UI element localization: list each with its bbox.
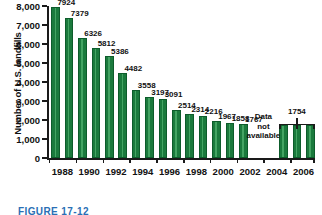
x-tick-mark-1996 bbox=[156, 158, 158, 163]
bar-highlight bbox=[175, 111, 176, 157]
x-tick-label-2000: 2000 bbox=[213, 166, 234, 177]
x-tick-mark-end bbox=[313, 158, 315, 163]
bar-highlight bbox=[148, 98, 149, 157]
y-tick-label: 0 bbox=[35, 153, 40, 164]
figure-caption: FIGURE 17-12 bbox=[18, 206, 89, 215]
bar-value-label-1989: 7379 bbox=[71, 9, 89, 18]
bar-2001 bbox=[226, 123, 235, 158]
x-tick-label-1990: 1990 bbox=[79, 166, 100, 177]
bar-1993 bbox=[118, 73, 127, 158]
bar-highlight bbox=[162, 100, 163, 157]
y-tick-label: 3,000 bbox=[16, 96, 40, 107]
bar-value-label-1996: 3091 bbox=[165, 90, 183, 99]
x-tick-label-1998: 1998 bbox=[186, 166, 207, 177]
x-axis-line bbox=[47, 158, 315, 160]
bracket-leg-mid bbox=[296, 124, 298, 129]
y-tick-mark bbox=[42, 100, 47, 102]
y-tick-label: 5,000 bbox=[16, 58, 40, 69]
bar-highlight bbox=[81, 39, 82, 157]
bracket-leg-left bbox=[279, 124, 281, 129]
gap-note-line-3: available bbox=[246, 131, 280, 141]
bar-value-label-1993: 4482 bbox=[124, 64, 142, 73]
bar-value-label-1990: 6326 bbox=[84, 29, 102, 38]
y-tick-mark bbox=[42, 62, 47, 64]
bar-highlight bbox=[95, 49, 96, 157]
bar-2005 bbox=[279, 125, 288, 158]
x-tick-label-2006: 2006 bbox=[293, 166, 314, 177]
bar-highlight bbox=[309, 126, 310, 157]
bar-1991 bbox=[92, 48, 101, 158]
gap-note-line-2: not bbox=[246, 122, 280, 132]
bar-highlight bbox=[229, 124, 230, 157]
bracket-stem bbox=[296, 118, 298, 124]
bar-highlight bbox=[108, 57, 109, 157]
bar-1995 bbox=[145, 97, 154, 158]
x-tick-mark-1994 bbox=[129, 158, 131, 163]
bar-highlight bbox=[122, 74, 123, 157]
x-tick-mark-1992 bbox=[103, 158, 105, 163]
x-tick-label-2002: 2002 bbox=[239, 166, 260, 177]
bar-2006 bbox=[293, 125, 302, 158]
y-tick-mark bbox=[42, 43, 47, 45]
bar-highlight bbox=[135, 91, 136, 157]
x-tick-mark-2000 bbox=[210, 158, 212, 163]
bar-highlight bbox=[68, 19, 69, 157]
x-tick-label-1994: 1994 bbox=[132, 166, 153, 177]
y-tick-mark bbox=[42, 81, 47, 83]
x-tick-label-1996: 1996 bbox=[159, 166, 180, 177]
bar-highlight bbox=[189, 115, 190, 157]
bar-1988 bbox=[51, 7, 60, 158]
x-tick-label-2004: 2004 bbox=[266, 166, 287, 177]
y-tick-label: 6,000 bbox=[16, 39, 40, 50]
bar-1989 bbox=[65, 18, 74, 158]
bar-2000 bbox=[212, 121, 221, 158]
y-tick-mark bbox=[42, 119, 47, 121]
bar-2007 bbox=[306, 125, 315, 158]
x-tick-label-1988: 1988 bbox=[52, 166, 73, 177]
y-tick-label: 2,000 bbox=[16, 115, 40, 126]
bar-highlight bbox=[242, 125, 243, 157]
x-tick-mark-2004 bbox=[263, 158, 265, 163]
gap-note-line-1: Data bbox=[246, 112, 280, 122]
bar-value-label-1992: 5386 bbox=[111, 47, 129, 56]
y-tick-label: 8,000 bbox=[16, 1, 40, 12]
y-axis-line bbox=[47, 6, 49, 158]
bar-value-label-1988: 7924 bbox=[57, 0, 75, 7]
bar-highlight bbox=[296, 126, 297, 157]
y-tick-mark bbox=[42, 24, 47, 26]
x-tick-mark-1988 bbox=[49, 158, 51, 163]
bar-1996 bbox=[159, 99, 168, 158]
y-tick-mark bbox=[42, 5, 47, 7]
x-tick-mark-1990 bbox=[76, 158, 78, 163]
bar-highlight bbox=[202, 117, 203, 157]
bar-1999 bbox=[199, 116, 208, 158]
y-tick-mark bbox=[42, 157, 47, 159]
x-tick-mark-1998 bbox=[183, 158, 185, 163]
x-tick-mark-2006 bbox=[290, 158, 292, 163]
bar-1997 bbox=[172, 110, 181, 158]
bar-1994 bbox=[132, 90, 141, 158]
y-tick-label: 1,000 bbox=[16, 134, 40, 145]
bar-1990 bbox=[78, 38, 87, 158]
y-tick-mark bbox=[42, 138, 47, 140]
bracket-leg-right bbox=[313, 124, 315, 129]
y-tick-label: 4,000 bbox=[16, 77, 40, 88]
bar-highlight bbox=[55, 8, 56, 157]
landfill-bar-chart-figure: Number of U.S. landfills 01,0002,0003,00… bbox=[0, 0, 322, 215]
bracket-value-label: 1754 bbox=[288, 107, 306, 116]
y-tick-label: 7,000 bbox=[16, 20, 40, 31]
data-not-available-note: Datanotavailable bbox=[246, 112, 280, 141]
bar-1992 bbox=[105, 56, 114, 158]
bar-highlight bbox=[215, 122, 216, 157]
bar-1998 bbox=[185, 114, 194, 158]
x-tick-label-1992: 1992 bbox=[105, 166, 126, 177]
bar-highlight bbox=[282, 126, 283, 157]
plot-area: 01,0002,0003,0004,0005,0006,0007,0008,00… bbox=[47, 6, 315, 158]
x-tick-mark-2002 bbox=[237, 158, 239, 163]
